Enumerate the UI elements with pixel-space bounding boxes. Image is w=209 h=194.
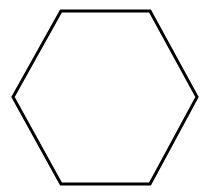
hexagon-figure [0,0,209,194]
drawing-canvas [0,0,209,194]
